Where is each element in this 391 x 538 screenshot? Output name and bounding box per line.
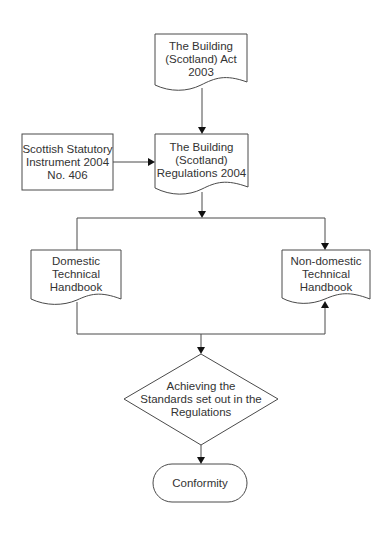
ssi-label: Scottish Statutory Instrument 2004 No. 4… (22, 134, 113, 190)
nondomestic-label: Non-domestic Technical Handbook (282, 253, 370, 295)
connector-split-to-handbooks (77, 218, 329, 250)
connector-regs-to-split (198, 192, 206, 218)
connector-act-to-regs (198, 88, 206, 134)
domestic-label: Domestic Technical Handbook (31, 253, 121, 295)
connector-achieving-to-conformity (197, 445, 205, 464)
connector-ssi-to-regs (113, 158, 155, 166)
connector-merge-to-achieving (197, 334, 205, 354)
achieving-label: Achieving the Standards set out in the R… (124, 378, 278, 420)
regs-label: The Building (Scotland) Regulations 2004 (155, 138, 248, 182)
act-label: The Building (Scotland) Act 2003 (155, 38, 247, 80)
connector-handbooks-merge (77, 301, 329, 334)
conformity-label: Conformity (153, 464, 247, 502)
